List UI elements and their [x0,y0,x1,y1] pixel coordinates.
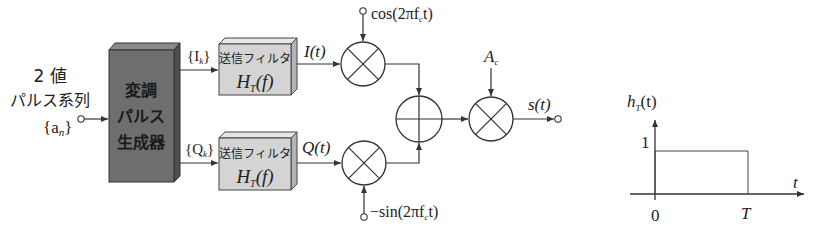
iq-modulator-diagram: 2 値 パルス系列 {an} 変調 パルス 生成器 {Ik} 送信フィルタ HT… [0,0,820,244]
generator-label-line2: パルス [117,107,165,126]
i-sequence-label: {Ik} [187,48,210,66]
graph-y-label: hT(t) [627,92,657,113]
input-label-pulse-sequence: パルス系列 [10,91,90,110]
generator-top-face [109,43,180,50]
graph-y-tick-1: 1 [641,133,650,152]
i-transmit-filter: 送信フィルタ HT(f) [219,38,297,95]
i-filter-side-face [291,38,297,95]
impulse-response-graph: hT(t) 1 0 T t [627,92,804,225]
q-transmit-filter: 送信フィルタ HT(f) [219,132,297,190]
rectangular-pulse [655,151,748,194]
q-filter-title: 送信フィルタ [219,146,291,161]
i-mixer-to-adder-wire [385,64,419,95]
input-symbol-an: {an} [43,118,72,138]
input-label-binary: 2 値 [33,66,66,86]
modulation-pulse-generator: 変調 パルス 生成器 [109,43,180,182]
q-mixer-to-adder-wire [386,143,419,163]
output-terminal [555,116,561,122]
graph-x-tick-0: 0 [651,206,660,225]
amplitude-label: Ac [483,47,498,67]
q-filter-top-face [219,132,297,138]
q-signal-label: Q(t) [302,138,331,157]
i-mixer [341,42,385,86]
cos-carrier-terminal [360,8,366,14]
q-sequence-label: {Qk} [185,141,214,159]
i-signal-label: I(t) [303,42,326,61]
generator-side-face [174,43,180,182]
adder [396,96,442,142]
generator-label-line3: 生成器 [117,133,166,152]
i-filter-top-face [219,38,297,44]
cos-carrier-label: cos(2πfct) [371,5,433,24]
input-label-group: 2 値 パルス系列 {an} [10,66,90,138]
graph-x-tick-T: T [741,204,752,223]
i-filter-title: 送信フィルタ [219,51,291,66]
graph-x-label: t [793,173,799,192]
amplitude-mixer [469,97,513,141]
sin-carrier-label: −sin(2πfct) [370,203,438,222]
output-label: s(t) [528,95,551,114]
q-filter-side-face [291,132,297,190]
sin-carrier-terminal [361,214,367,220]
generator-label-line1: 変調 [125,81,157,100]
q-mixer [342,141,386,185]
input-terminal [78,116,84,122]
